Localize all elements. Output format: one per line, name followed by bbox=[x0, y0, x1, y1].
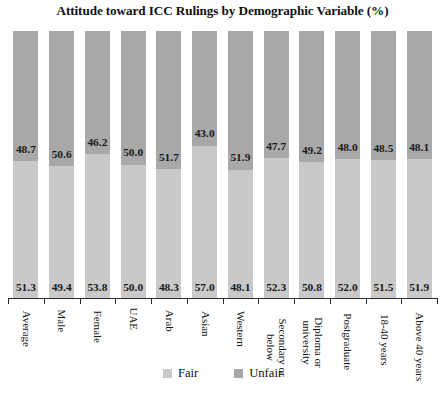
x-axis-category-label: Arab bbox=[151, 305, 187, 363]
x-axis-tick bbox=[437, 298, 438, 304]
x-axis-tick bbox=[294, 298, 295, 304]
bar-group: 46.253.8 bbox=[85, 31, 110, 298]
bar-value-label-unfair: 50.6 bbox=[52, 149, 72, 162]
x-axis-tick bbox=[330, 298, 331, 304]
bar-segment-fair: 48.1 bbox=[228, 170, 253, 298]
x-axis-category-label: Asian bbox=[187, 305, 223, 363]
bar-segment-unfair: 48.5 bbox=[371, 31, 396, 160]
x-axis-tick bbox=[115, 298, 116, 304]
bar-segment-unfair: 48.7 bbox=[13, 31, 38, 161]
bar-value-label-fair: 48.1 bbox=[230, 282, 250, 295]
bar-value-label-fair: 53.8 bbox=[87, 282, 107, 295]
bar-segment-fair: 52.0 bbox=[335, 159, 360, 298]
legend-label: Unfair bbox=[249, 366, 282, 381]
x-axis-tick bbox=[151, 298, 152, 304]
bar-group: 47.752.3 bbox=[264, 31, 289, 298]
bar-group: 48.551.5 bbox=[371, 31, 396, 298]
bar-value-label-unfair: 48.5 bbox=[373, 143, 393, 156]
bar-segment-fair: 48.3 bbox=[156, 169, 181, 298]
x-axis-category-label-text: Postgraduate bbox=[342, 314, 354, 371]
bar-segment-unfair: 49.2 bbox=[299, 31, 324, 162]
bar-value-label-unfair: 48.1 bbox=[409, 142, 429, 155]
bar-value-label-fair: 50.0 bbox=[123, 282, 143, 295]
bar-value-label-unfair: 43.0 bbox=[195, 128, 215, 141]
legend-item-fair[interactable]: Fair bbox=[163, 366, 198, 381]
x-axis-category-label: Female bbox=[80, 305, 116, 363]
bar-value-label-unfair: 51.9 bbox=[230, 152, 250, 165]
bar-value-label-unfair: 49.2 bbox=[302, 145, 322, 158]
bar-group: 51.748.3 bbox=[156, 31, 181, 298]
x-axis-category-label: Above 40 years bbox=[401, 305, 437, 363]
bar-segment-unfair: 51.7 bbox=[156, 31, 181, 169]
bar-group: 49.250.8 bbox=[299, 31, 324, 298]
bar-group: 43.057.0 bbox=[192, 31, 217, 298]
bar-group: 48.751.3 bbox=[13, 31, 38, 298]
bar-segment-fair: 49.4 bbox=[49, 166, 74, 298]
bar-value-label-unfair: 47.7 bbox=[266, 141, 286, 154]
bar-value-label-fair: 51.5 bbox=[373, 282, 393, 295]
bar-value-label-unfair: 50.0 bbox=[123, 147, 143, 160]
bar-group: 50.050.0 bbox=[121, 31, 146, 298]
bar-group: 51.948.1 bbox=[228, 31, 253, 298]
bar-value-label-unfair: 46.2 bbox=[87, 137, 107, 150]
legend-swatch-fair-icon bbox=[163, 369, 172, 378]
x-axis-category-label: Diploma oruniversity bbox=[294, 305, 330, 363]
x-axis-category-label-text: Western bbox=[235, 311, 247, 347]
bar-segment-fair: 52.3 bbox=[264, 158, 289, 298]
x-axis-tick bbox=[366, 298, 367, 304]
bar-segment-fair: 53.8 bbox=[85, 154, 110, 298]
x-axis-category-label-text: Diploma oruniversity bbox=[300, 317, 323, 367]
x-axis-tick bbox=[187, 298, 188, 304]
chart-legend: FairUnfair bbox=[0, 366, 445, 381]
bar-value-label-fair: 49.4 bbox=[52, 282, 72, 295]
x-axis-tick bbox=[8, 298, 9, 304]
bar-segment-unfair: 48.1 bbox=[407, 31, 432, 159]
bar-value-label-unfair: 48.0 bbox=[338, 142, 358, 155]
bar-segment-fair: 51.3 bbox=[13, 161, 38, 298]
bar-segment-unfair: 50.0 bbox=[121, 31, 146, 165]
bar-segment-fair: 57.0 bbox=[192, 146, 217, 298]
legend-swatch-unfair-icon bbox=[234, 369, 243, 378]
bar-segment-unfair: 51.9 bbox=[228, 31, 253, 170]
chart-title: Attitude toward ICC Rulings by Demograph… bbox=[0, 3, 445, 19]
x-axis-category-label-text: Arab bbox=[163, 310, 175, 332]
x-axis-category-label: UAE bbox=[115, 305, 151, 363]
x-axis-tick bbox=[401, 298, 402, 304]
chart-container: Attitude toward ICC Rulings by Demograph… bbox=[0, 0, 445, 395]
x-axis-category-label: Postgraduate bbox=[330, 305, 366, 363]
bar-segment-unfair: 50.6 bbox=[49, 31, 74, 166]
legend-label: Fair bbox=[178, 366, 198, 381]
bar-group: 48.151.9 bbox=[407, 31, 432, 298]
bar-value-label-fair: 51.3 bbox=[16, 282, 36, 295]
bar-segment-fair: 50.8 bbox=[299, 162, 324, 298]
bar-value-label-fair: 52.3 bbox=[266, 282, 286, 295]
x-axis-tick bbox=[44, 298, 45, 304]
x-axis-category-label: Secondary orbelow bbox=[258, 305, 294, 363]
x-axis-category-label-text: Female bbox=[92, 310, 104, 342]
bar-value-label-fair: 52.0 bbox=[338, 282, 358, 295]
bar-value-label-unfair: 51.7 bbox=[159, 152, 179, 165]
bar-value-label-fair: 48.3 bbox=[159, 282, 179, 295]
plot-area: 48.751.350.649.446.253.850.050.051.748.3… bbox=[8, 31, 437, 298]
bar-value-label-fair: 57.0 bbox=[195, 282, 215, 295]
x-axis-category-label-text: 18-40 years bbox=[378, 314, 390, 366]
x-axis-category-label: Male bbox=[44, 305, 80, 363]
bar-value-label-unfair: 48.7 bbox=[16, 144, 36, 157]
x-axis-category-label-text: UAE bbox=[127, 307, 139, 330]
bar-segment-fair: 50.0 bbox=[121, 165, 146, 299]
bar-group: 50.649.4 bbox=[49, 31, 74, 298]
x-axis-category-label: Average bbox=[8, 305, 44, 363]
x-axis-category-label-text: Asian bbox=[199, 311, 211, 337]
x-axis-category-label: Western bbox=[223, 305, 259, 363]
bar-segment-unfair: 46.2 bbox=[85, 31, 110, 154]
x-axis-category-labels: AverageMaleFemaleUAEArabAsianWesternSeco… bbox=[8, 305, 437, 363]
x-axis-category-label: 18-40 years bbox=[366, 305, 402, 363]
x-axis-tick bbox=[258, 298, 259, 304]
x-axis-category-label-text: Male bbox=[56, 310, 68, 333]
bar-group: 48.052.0 bbox=[335, 31, 360, 298]
bar-segment-fair: 51.9 bbox=[407, 159, 432, 298]
x-axis-tick bbox=[223, 298, 224, 304]
legend-item-unfair[interactable]: Unfair bbox=[234, 366, 282, 381]
bar-value-label-fair: 51.9 bbox=[409, 282, 429, 295]
bar-value-label-fair: 50.8 bbox=[302, 282, 322, 295]
